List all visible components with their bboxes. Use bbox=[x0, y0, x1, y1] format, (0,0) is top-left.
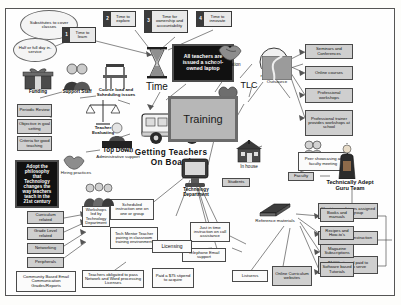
reference-box-listservs[interactable]: Listservs bbox=[232, 270, 268, 282]
philosophy-text: Adopt the philosophy that Technology cha… bbox=[20, 164, 54, 204]
community-based-box[interactable]: Community Based Email Communication Grad… bbox=[16, 271, 76, 292]
techdept-box-justintime[interactable]: Just in time instruction on call assista… bbox=[190, 222, 230, 242]
step-box-2[interactable]: 2 Time to explore bbox=[103, 11, 136, 27]
step-number-4: 4 bbox=[197, 12, 204, 26]
diagram-canvas: Substitutes to cover classes Half or ful… bbox=[0, 0, 401, 305]
desk-chair-icon bbox=[100, 60, 130, 90]
book-icon bbox=[258, 200, 292, 218]
handshake-icon bbox=[217, 40, 243, 64]
topic-box-curriculum[interactable]: Curriculum related bbox=[27, 211, 64, 224]
reinforcement-box-workshops[interactable]: Professional workshops bbox=[305, 88, 353, 103]
licensing-box[interactable]: Licensing bbox=[152, 240, 192, 253]
step-box-3[interactable]: 3 Time for ownership and accountability bbox=[144, 10, 188, 33]
outsource-label: Outsource bbox=[256, 80, 298, 85]
philosophy-panel: Adopt the philosophy that Technology cha… bbox=[15, 160, 59, 208]
hiring-practices-label: Hiring practices bbox=[58, 171, 94, 176]
step-label-4: Time to innovate bbox=[204, 15, 231, 24]
schoolhouse-icon bbox=[234, 140, 264, 164]
road-icon bbox=[262, 56, 292, 80]
step-label-3: Time for ownership and accountability bbox=[152, 15, 187, 28]
step-number-2: 2 bbox=[104, 12, 111, 26]
gift-icon bbox=[22, 66, 54, 90]
step-label-1: Time to learn bbox=[70, 31, 95, 40]
reference-box-recipes[interactable]: Recipes and How-to's bbox=[320, 226, 354, 240]
training-label: Training bbox=[183, 113, 222, 125]
reinforcement-box-trainer[interactable]: Professional trainer provides workshops … bbox=[305, 110, 353, 136]
computer-monitor-icon bbox=[180, 158, 210, 188]
step-box-4[interactable]: 4 Time to innovate bbox=[196, 11, 232, 27]
handshake-icon-hiring bbox=[62, 152, 86, 172]
robed-figure-icon bbox=[334, 143, 360, 179]
reinforcement-box-online-courses[interactable]: Online courses bbox=[305, 66, 353, 80]
cooperation-label: Cooperation bbox=[206, 63, 250, 68]
reference-box-books[interactable]: Books and manuals bbox=[320, 208, 354, 222]
funding-label: Funding bbox=[22, 90, 54, 95]
support-staff-label: Support Staff bbox=[60, 90, 94, 95]
cloud-inservice: Half or full day in-service bbox=[13, 38, 57, 62]
reinforcement-box-seminars[interactable]: Seminars and Conferences bbox=[305, 44, 353, 59]
technology-department-label: Technology Department bbox=[172, 188, 220, 197]
in-house-label: In house bbox=[230, 165, 268, 170]
licensing-box-stipend[interactable]: Paid a $75 stipend to acquire bbox=[152, 268, 194, 288]
reference-materials-label: Reference materials bbox=[254, 219, 296, 224]
licensing-box-obligated[interactable]: Teachers obligated to pass Network and W… bbox=[82, 270, 144, 288]
course-load-label: Course load and Scheduling issues bbox=[96, 88, 136, 97]
reference-box-magazine[interactable]: Magazine Subscriptions bbox=[320, 244, 354, 258]
step-number-3: 3 bbox=[145, 11, 152, 32]
group-of-people-icon bbox=[82, 182, 116, 206]
cloud-inservice-label: Half or full day in-service bbox=[16, 46, 54, 55]
training-board: Training bbox=[168, 96, 238, 142]
topic-box-peripherals[interactable]: Peripherals bbox=[27, 257, 64, 268]
topic-box-grade-level[interactable]: Grade Level related bbox=[27, 227, 64, 240]
students-box[interactable]: Students bbox=[222, 178, 250, 187]
hourglass-icon bbox=[144, 46, 170, 80]
guru-team-label: Technically Adept Guru Team bbox=[322, 180, 378, 192]
step-box-1[interactable]: 1 Time to learn bbox=[62, 27, 96, 43]
reference-box-online-curriculum[interactable]: Online Curriculum websites bbox=[272, 266, 312, 286]
techdept-box-workshops[interactable]: Workshops led by Technology Department bbox=[82, 206, 110, 227]
step-number-1: 1 bbox=[63, 28, 70, 42]
techdept-box-scheduled[interactable]: Scheduled instruction one on one or grou… bbox=[110, 199, 154, 220]
step-label-2: Time to explore bbox=[111, 15, 135, 24]
evaluation-box-objective[interactable]: Objective in goal setting bbox=[17, 119, 52, 134]
reference-box-software[interactable]: Software based Tutorials bbox=[320, 262, 354, 277]
person-at-desk-icon bbox=[100, 122, 134, 148]
faculty-box[interactable]: Faculty bbox=[288, 172, 314, 181]
evaluation-box-criteria[interactable]: Criteria for good teaching bbox=[17, 136, 52, 151]
people-icon bbox=[62, 62, 92, 90]
topic-box-networking[interactable]: Networking bbox=[27, 243, 64, 254]
evaluation-box-periodic-review[interactable]: Periodic Review bbox=[17, 104, 52, 117]
time-label: Time bbox=[136, 81, 178, 92]
techdept-box-mentor[interactable]: Tech Mentor Teacher pairing in classroom… bbox=[110, 227, 158, 249]
